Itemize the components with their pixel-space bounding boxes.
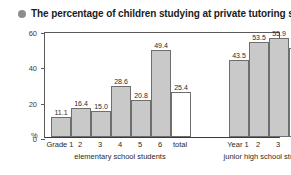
group-caption: elementary school students: [74, 152, 165, 161]
group-caption: junior high school students: [224, 152, 291, 161]
bar-value-label: 55.9: [272, 30, 286, 38]
x-axis-label: 2: [78, 140, 82, 149]
bar[interactable]: 25.4: [171, 92, 191, 137]
bar[interactable]: 28.6: [111, 86, 131, 137]
x-axis-label: 3: [276, 140, 280, 149]
bar[interactable]: 43.5: [229, 60, 249, 137]
y-tick-label-0: 0: [33, 136, 37, 144]
bar-value-label: 28.6: [114, 78, 128, 86]
y-tick-label-20: 20: [29, 101, 37, 109]
bar-value-label: 15.0: [94, 103, 108, 111]
y-tick-label-60: 60: [29, 30, 37, 38]
x-axis-label: 6: [158, 140, 162, 149]
bar-value-label: 53.5: [252, 34, 266, 42]
bar[interactable]: 55.9: [269, 38, 289, 137]
chart-title-text: The percentage of children studying at p…: [31, 9, 291, 19]
bar-value-label: 16.4: [74, 100, 88, 108]
bar-value-label: 25.4: [174, 84, 188, 92]
bar[interactable]: 15.0: [91, 111, 111, 138]
y-tick-label-40: 40: [29, 66, 37, 74]
plot-area: % 0204060 11.116.415.028.620.849.425.443…: [44, 32, 280, 138]
bar-value-label: 49.4: [154, 42, 168, 50]
chart-title: The percentage of children studying at p…: [18, 9, 291, 19]
bar[interactable]: 16.4: [71, 108, 91, 137]
x-axis-label: 2: [256, 140, 260, 149]
bar[interactable]: 11.1: [51, 117, 71, 137]
bar-series: 11.116.415.028.620.849.425.443.553.555.9…: [45, 33, 279, 137]
bar-value-label: 11.1: [54, 109, 67, 117]
bar-value-label: 43.5: [232, 52, 246, 60]
bar[interactable]: 20.8: [131, 100, 151, 137]
bar[interactable]: 50.2: [289, 48, 291, 137]
x-axis-label: Grade 1: [46, 140, 73, 149]
bar[interactable]: 53.5: [249, 42, 269, 137]
bullet-circle-icon: [18, 10, 26, 18]
bar-value-label: 20.8: [134, 92, 148, 100]
x-axis-label: Year 1: [227, 140, 248, 149]
bar[interactable]: 49.4: [151, 50, 171, 137]
x-axis-label: 4: [118, 140, 122, 149]
x-axis-label: 3: [98, 140, 102, 149]
x-axis-label: total: [173, 140, 187, 149]
x-axis-labels: Grade 123456totalYear 123total: [44, 140, 280, 152]
x-axis-label: 5: [138, 140, 142, 149]
chart-container: The percentage of children studying at p…: [0, 0, 291, 175]
